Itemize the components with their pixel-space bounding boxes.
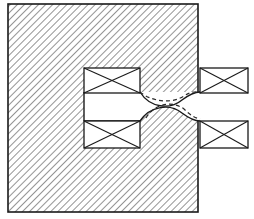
coil-upper-right [200, 68, 248, 93]
coil-upper-left [84, 68, 140, 93]
coil-lower-right [200, 121, 248, 148]
coil-lower-left [84, 121, 140, 148]
cross-section-diagram: Hatched body cross-section with four cro… [0, 0, 254, 219]
figure-container: Hatched body cross-section with four cro… [0, 0, 254, 219]
